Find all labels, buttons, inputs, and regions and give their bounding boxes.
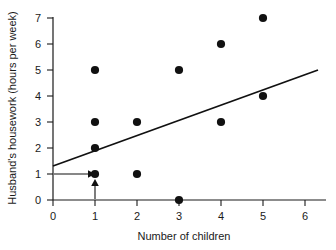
data-point — [259, 14, 267, 22]
data-point — [91, 118, 99, 126]
x-tick-label-0: 0 — [50, 210, 56, 222]
data-point — [175, 196, 183, 204]
y-tick-label-0: 0 — [35, 194, 41, 206]
x-tick-label-1: 1 — [92, 210, 98, 222]
data-point — [175, 66, 183, 74]
x-tick-label-2: 2 — [134, 210, 140, 222]
data-point — [91, 170, 99, 178]
x-tick-label-6: 6 — [302, 210, 308, 222]
data-point — [133, 118, 141, 126]
data-point — [91, 66, 99, 74]
y-tick-label-7: 7 — [35, 12, 41, 24]
y-axis-title: Husband's housework (hours per week) — [6, 11, 18, 204]
chart-figure: 0 1 2 3 4 5 6 7 Husband's housework (hou… — [0, 0, 336, 250]
data-point — [133, 170, 141, 178]
y-tick-label-6: 6 — [35, 38, 41, 50]
y-tick-label-5: 5 — [35, 64, 41, 76]
data-point — [217, 118, 225, 126]
data-point — [217, 40, 225, 48]
x-tick-label-5: 5 — [260, 210, 266, 222]
y-tick-label-3: 3 — [35, 116, 41, 128]
x-tick-label-4: 4 — [218, 210, 224, 222]
y-tick-label-1: 1 — [35, 168, 41, 180]
scatter-plot-svg: 0 1 2 3 4 5 6 7 Husband's housework (hou… — [0, 0, 336, 250]
y-tick-label-4: 4 — [35, 90, 41, 102]
x-tick-label-3: 3 — [176, 210, 182, 222]
x-axis-title: Number of children — [138, 230, 231, 242]
data-point — [91, 144, 99, 152]
y-tick-label-2: 2 — [35, 142, 41, 154]
data-point — [259, 92, 267, 100]
